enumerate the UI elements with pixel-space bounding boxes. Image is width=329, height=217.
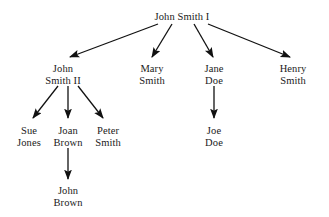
edge-john1-to-john2	[70, 24, 158, 57]
node-label-line1: Joan	[53, 125, 82, 137]
node-label-line2: Brown	[53, 197, 82, 209]
edge-john2-to-peter	[78, 86, 103, 118]
edge-john2-to-sue	[33, 86, 58, 118]
node-label-line1: John	[53, 185, 82, 197]
node-label-line2: Smith II	[45, 75, 81, 87]
node-label-line1: Henry	[280, 63, 307, 75]
node-label-line2: Doe	[204, 75, 223, 87]
node-label-line1: Mary	[139, 63, 165, 75]
john-smith-i-node[interactable]: John Smith I	[155, 11, 210, 23]
jane-doe-node[interactable]: JaneDoe	[204, 63, 223, 86]
node-label-line2: Brown	[53, 137, 82, 149]
family-tree-diagram: John Smith IJohnSmith IIMarySmithJaneDoe…	[0, 0, 329, 217]
john-smith-ii-node[interactable]: JohnSmith II	[45, 63, 81, 86]
node-label-line2: Smith	[95, 137, 121, 149]
node-label-line1: Sue	[17, 125, 41, 137]
node-label-line2: Smith	[139, 75, 165, 87]
node-label-line2: Smith	[280, 75, 307, 87]
sue-jones-node[interactable]: SueJones	[17, 125, 41, 148]
node-label-line2: Jones	[17, 137, 41, 149]
node-label-line1: John Smith I	[155, 11, 210, 23]
john-brown-node[interactable]: JohnBrown	[53, 185, 82, 208]
joe-doe-node[interactable]: JoeDoe	[205, 125, 223, 148]
node-label-line1: Peter	[95, 125, 121, 137]
node-label-line1: Joe	[205, 125, 223, 137]
edge-layer	[0, 0, 329, 217]
edges-group	[33, 24, 290, 179]
edge-john1-to-jane	[194, 24, 213, 57]
joan-brown-node[interactable]: JoanBrown	[53, 125, 82, 148]
node-label-line1: John	[45, 63, 81, 75]
peter-smith-node[interactable]: PeterSmith	[95, 125, 121, 148]
edge-john1-to-henry	[208, 24, 290, 57]
henry-smith-node[interactable]: HenrySmith	[280, 63, 307, 86]
node-label-line1: Jane	[204, 63, 223, 75]
edge-john1-to-mary	[152, 24, 172, 57]
mary-smith-node[interactable]: MarySmith	[139, 63, 165, 86]
node-label-line2: Doe	[205, 137, 223, 149]
